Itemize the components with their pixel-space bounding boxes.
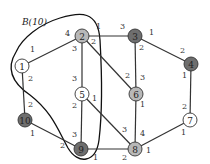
edge-weight-label: 2 xyxy=(91,37,96,46)
edge-4-7 xyxy=(190,64,191,120)
edge-weight-label: 2 xyxy=(139,43,144,52)
node-label: 6 xyxy=(133,90,139,100)
node-4: 4 xyxy=(184,57,198,71)
edge-weight-label: 2 xyxy=(180,46,185,55)
edge-weight-labels: 1422133322122312231314111212 xyxy=(28,22,187,162)
edge-weight-label: 1 xyxy=(182,71,187,80)
edge-weight-label: 2 xyxy=(28,100,33,109)
edge-weight-label: 2 xyxy=(125,71,130,80)
edge-weight-label: 3 xyxy=(140,73,145,82)
edge-weight-label: 1 xyxy=(30,129,35,138)
edge-3-6 xyxy=(135,36,136,94)
graph-diagram: 1422133322122312231314111212 12345678910… xyxy=(0,0,210,164)
edge-1-10 xyxy=(22,66,25,120)
edge-weight-label: 3 xyxy=(72,44,77,53)
node-6: 6 xyxy=(129,87,143,101)
node-2: 2 xyxy=(75,29,89,43)
edge-weight-label: 1 xyxy=(149,28,154,37)
nodes: 12345678910 xyxy=(15,29,198,156)
edge-weight-label: 1 xyxy=(93,153,98,162)
edge-weight-label: 1 xyxy=(140,100,145,109)
edge-weight-label: 2 xyxy=(182,102,187,111)
edge-weight-label: 1 xyxy=(30,45,35,54)
edge-weight-label: 2 xyxy=(60,141,65,150)
edge-weight-label: 1 xyxy=(96,22,101,31)
edge-weight-label: 3 xyxy=(72,130,77,139)
edge-weight-label: 2 xyxy=(122,153,127,162)
edge-weight-label: 1 xyxy=(146,146,151,155)
edge-weight-label: 2 xyxy=(28,74,33,83)
node-label: 10 xyxy=(19,116,31,126)
node-9: 9 xyxy=(74,142,88,156)
node-label: 3 xyxy=(132,32,138,42)
edge-weight-label: 1 xyxy=(92,94,97,103)
edge-weight-label: 4 xyxy=(65,29,70,38)
edges xyxy=(22,36,191,149)
region-label: B(10) xyxy=(21,17,48,27)
node-1: 1 xyxy=(15,59,29,73)
node-label: 4 xyxy=(188,60,194,70)
node-7: 7 xyxy=(183,113,197,127)
node-label: 2 xyxy=(79,32,85,42)
edge-6-8 xyxy=(135,94,136,149)
node-3: 3 xyxy=(128,29,142,43)
graph-canvas: 1422133322122312231314111212 12345678910… xyxy=(0,0,210,164)
node-label: 8 xyxy=(132,145,138,155)
edge-weight-label: 3 xyxy=(120,22,125,31)
node-8: 8 xyxy=(128,142,142,156)
node-5: 5 xyxy=(75,87,89,101)
edge-5-8 xyxy=(82,94,135,149)
node-label: 9 xyxy=(78,145,84,155)
node-10: 10 xyxy=(18,113,32,127)
edge-weight-label: 3 xyxy=(122,125,127,134)
edge-5-9 xyxy=(81,94,82,149)
node-label: 7 xyxy=(187,116,193,126)
edge-weight-label: 3 xyxy=(72,74,77,83)
node-label: 5 xyxy=(79,90,85,100)
edge-weight-label: 1 xyxy=(181,128,186,137)
edge-weight-label: 4 xyxy=(140,129,145,138)
edge-weight-label: 2 xyxy=(72,101,77,110)
node-label: 1 xyxy=(19,62,25,72)
